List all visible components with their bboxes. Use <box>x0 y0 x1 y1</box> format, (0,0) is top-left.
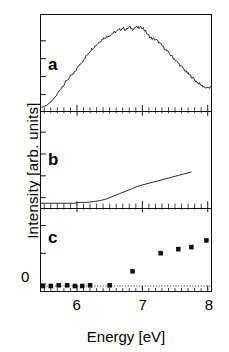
x-tick-label-7: 7 <box>139 296 147 313</box>
x-tick-label-8: 8 <box>205 296 213 313</box>
panel-b-plot <box>41 111 211 208</box>
x-tick-label-6: 6 <box>72 296 80 313</box>
panel-a-plot <box>41 15 211 111</box>
x-axis-label: Energy [eV] <box>40 328 212 345</box>
panel-label-b: b <box>48 150 58 170</box>
panel-divider-a-b <box>41 111 211 112</box>
panel-label-a: a <box>48 55 57 75</box>
figure-panel-stack: Intensity [arb. units] 0 a b c 6 7 8 Ene… <box>0 0 229 352</box>
panel-label-c: c <box>48 228 57 248</box>
panel-b-curve-svg <box>41 111 211 208</box>
panel-a-curve-svg <box>41 15 211 111</box>
panel-c-plot <box>41 208 211 293</box>
panel-divider-b-c <box>41 208 211 209</box>
panel-c-scatter-svg <box>41 208 211 293</box>
plot-frame <box>40 14 212 292</box>
y-axis-label: Intensity [arb. units] <box>24 51 41 291</box>
y-axis-zero-tick-label: 0 <box>21 268 29 285</box>
